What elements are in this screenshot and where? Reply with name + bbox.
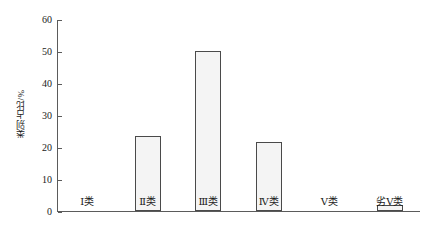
y-tick-mark: [58, 180, 62, 181]
y-axis-title: 类别占比/%: [14, 72, 28, 156]
y-tick-mark: [58, 52, 62, 53]
x-axis-label: Ⅱ类: [139, 197, 156, 207]
y-tick-label: 10: [42, 175, 52, 185]
bar-slot: [195, 51, 221, 211]
y-tick-label: 50: [42, 47, 52, 57]
y-tick-label: 20: [42, 143, 52, 153]
y-tick-label: 60: [42, 15, 52, 25]
x-axis-label: 劣Ⅴ类: [376, 197, 403, 207]
y-tick-mark: [58, 212, 62, 213]
x-axis-label: Ⅳ类: [259, 197, 279, 207]
y-tick-label: 30: [42, 111, 52, 121]
y-tick-label: 0: [47, 207, 52, 217]
x-axis-label: Ⅰ类: [80, 197, 94, 207]
y-tick-label: 40: [42, 79, 52, 89]
x-axis-label: Ⅲ类: [198, 197, 218, 207]
plot-area: 0102030405060: [57, 20, 420, 212]
bar: [195, 51, 221, 211]
x-axis-line: [57, 211, 420, 212]
x-axis-label: Ⅴ类: [321, 197, 338, 207]
y-tick-mark: [58, 148, 62, 149]
y-tick-mark: [58, 84, 62, 85]
y-tick-mark: [58, 20, 62, 21]
y-tick-mark: [58, 116, 62, 117]
bar-chart-figure: 类别占比/% 0102030405060 Ⅰ类Ⅱ类Ⅲ类Ⅳ类Ⅴ类劣Ⅴ类: [0, 0, 437, 251]
